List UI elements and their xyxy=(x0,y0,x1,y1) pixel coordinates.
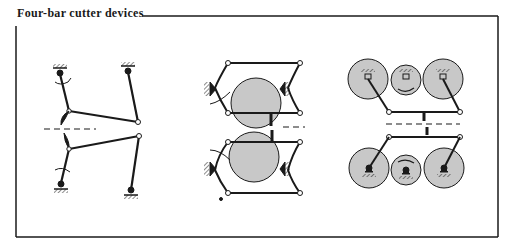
ground-support-icon xyxy=(285,162,290,176)
figure-simple-four-bar xyxy=(44,62,142,199)
figure-geared-four-bar xyxy=(348,59,464,188)
figure-four-bar-disks xyxy=(204,61,305,201)
ground-support-icon xyxy=(204,82,209,96)
ground-support-icon xyxy=(285,82,290,96)
diagram-canvas xyxy=(0,0,510,242)
ground-support-icon xyxy=(124,187,138,199)
ground-support-icon xyxy=(204,162,209,176)
ground-support-icon xyxy=(54,181,68,193)
cutter-blade-icon xyxy=(61,111,69,125)
